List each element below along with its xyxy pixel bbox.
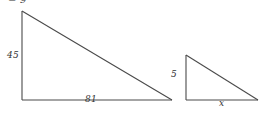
small-triangle-hypotenuse bbox=[186, 55, 258, 100]
small-triangle-vertical-label: 5 bbox=[171, 70, 177, 79]
large-triangle-group bbox=[22, 11, 172, 100]
triangles-drawing bbox=[0, 0, 265, 115]
large-triangle-hypotenuse bbox=[22, 11, 172, 100]
large-triangle-base-label: 81 bbox=[85, 95, 97, 104]
equation-fragment-label: = 9 bbox=[8, 0, 27, 5]
large-triangle-vertical-label: 45 bbox=[7, 51, 19, 60]
small-triangle-base-label: x bbox=[219, 99, 224, 108]
small-triangle-group bbox=[186, 55, 258, 100]
similar-triangles-figure: = 9 45 81 5 x bbox=[0, 0, 265, 115]
